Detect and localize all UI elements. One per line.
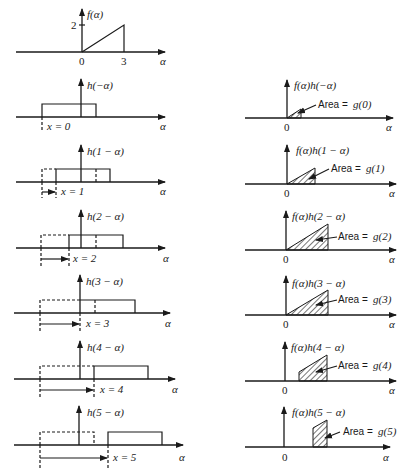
x-axis-label: α (172, 383, 178, 395)
h-label: h(5 − α) (87, 406, 124, 419)
left-panel-2: h(2 − α) x = 2 α (16, 210, 169, 266)
shift-label: x = 3 (85, 317, 110, 329)
left-panel-3: h(3 − α) x = 3 α (14, 275, 171, 332)
area-text: Area = (338, 231, 368, 242)
x-axis-label: α (179, 451, 185, 463)
origin-label: 0 (283, 253, 289, 265)
product-label: f(α)h(4 − α) (291, 341, 345, 354)
h-label: h(−α) (87, 79, 113, 92)
shaded-area (286, 290, 328, 315)
origin-label: 0 (282, 451, 288, 463)
h-rect-original (42, 169, 56, 182)
h-rect-original (40, 432, 94, 445)
shaded-area (287, 168, 315, 184)
f-alpha-triangle (82, 25, 124, 52)
h-label: h(3 − α) (86, 275, 123, 288)
left-panel-5: h(5 − α) x = 5 α (14, 406, 185, 468)
product-label: f(α)h(1 − α) (296, 144, 350, 157)
diagram-svg: f(α) 2 0 3 α h(−α) x = 0 α h(1 − α) x = … (0, 0, 406, 476)
origin-label: 0 (283, 318, 289, 330)
x-axis-label: α (160, 55, 166, 67)
area-value: g(3) (373, 293, 392, 306)
x-axis-label: α (163, 252, 169, 264)
f-alpha-label: f(α) (87, 8, 103, 21)
h-label: h(1 − α) (87, 145, 124, 158)
area-value: g(5) (378, 425, 397, 438)
shift-label: x = 0 (46, 120, 71, 132)
shift-label: x = 5 (112, 451, 137, 463)
x-axis-label: α (160, 120, 166, 132)
right-panel-4: f(α)h(4 − α) Area = g(4) 0 α (245, 341, 396, 396)
right-panel-3: f(α)h(3 − α) Area = g(3) 0 α (245, 276, 396, 330)
h-label: h(4 − α) (87, 341, 124, 354)
x-axis-label: α (389, 187, 395, 199)
area-text: Area = (338, 294, 368, 305)
x-tick-0: 0 (79, 55, 85, 67)
shift-label: x = 1 (60, 185, 84, 197)
area-text: Area = (343, 426, 373, 437)
left-panel-1: h(1 − α) x = 1 α (16, 145, 166, 198)
area-value: g(0) (353, 98, 372, 111)
x-axis-label: α (383, 451, 389, 463)
h-rect-shifted (56, 169, 110, 182)
y-tick-label: 2 (71, 19, 77, 31)
shaded-area (286, 224, 328, 250)
shaded-area (287, 109, 301, 118)
area-value: g(4) (373, 359, 392, 372)
left-panel-4: h(4 − α) x = 4 α (14, 341, 178, 398)
right-panel-5: f(α)h(5 − α) Area = g(5) 0 α (245, 406, 397, 463)
area-value: g(1) (366, 162, 385, 175)
x-axis-label: α (160, 185, 166, 197)
shaded-area (299, 355, 327, 381)
product-label: f(α)h(3 − α) (292, 277, 346, 290)
right-panel-0: f(α)h(−α) Area = g(0) 0 α (245, 79, 393, 133)
right-panel-1: f(α)h(1 − α) Area = g(1) 0 α (245, 144, 396, 199)
area-text: Area = (338, 360, 368, 371)
origin-label: 0 (284, 187, 290, 199)
f-alpha-plot: f(α) 2 0 3 α (16, 8, 166, 67)
x-axis-label: α (386, 121, 392, 133)
h-rect-shifted (94, 366, 148, 379)
area-text: Area = (331, 163, 361, 174)
x-axis-label: α (389, 253, 395, 265)
x-axis-label: α (389, 384, 395, 396)
x-axis-label: α (165, 317, 171, 329)
convolution-diagram: f(α) 2 0 3 α h(−α) x = 0 α h(1 − α) x = … (0, 0, 406, 476)
h-rect-original (40, 300, 80, 313)
h-rect (42, 104, 96, 117)
x-tick-3: 3 (121, 55, 127, 67)
x-axis-label: α (389, 318, 395, 330)
area-text: Area = (318, 99, 348, 110)
shaded-area (313, 420, 327, 447)
product-label: f(α)h(5 − α) (292, 406, 346, 419)
origin-label: 0 (284, 121, 290, 133)
shift-label: x = 2 (72, 252, 97, 264)
right-panel-2: f(α)h(2 − α) Area = g(2) 0 α (245, 210, 396, 265)
shift-label: x = 4 (99, 383, 124, 395)
left-panel-0: h(−α) x = 0 α (16, 79, 166, 132)
h-rect-original (41, 235, 69, 248)
area-value: g(2) (373, 230, 392, 243)
h-rect-shifted (80, 300, 135, 313)
product-label: f(α)h(−α) (294, 79, 337, 92)
h-label: h(2 − α) (87, 210, 124, 223)
h-rect-original (40, 366, 94, 379)
product-label: f(α)h(2 − α) (292, 210, 346, 223)
origin-label: 0 (282, 384, 288, 396)
h-rect-shifted (108, 432, 162, 445)
